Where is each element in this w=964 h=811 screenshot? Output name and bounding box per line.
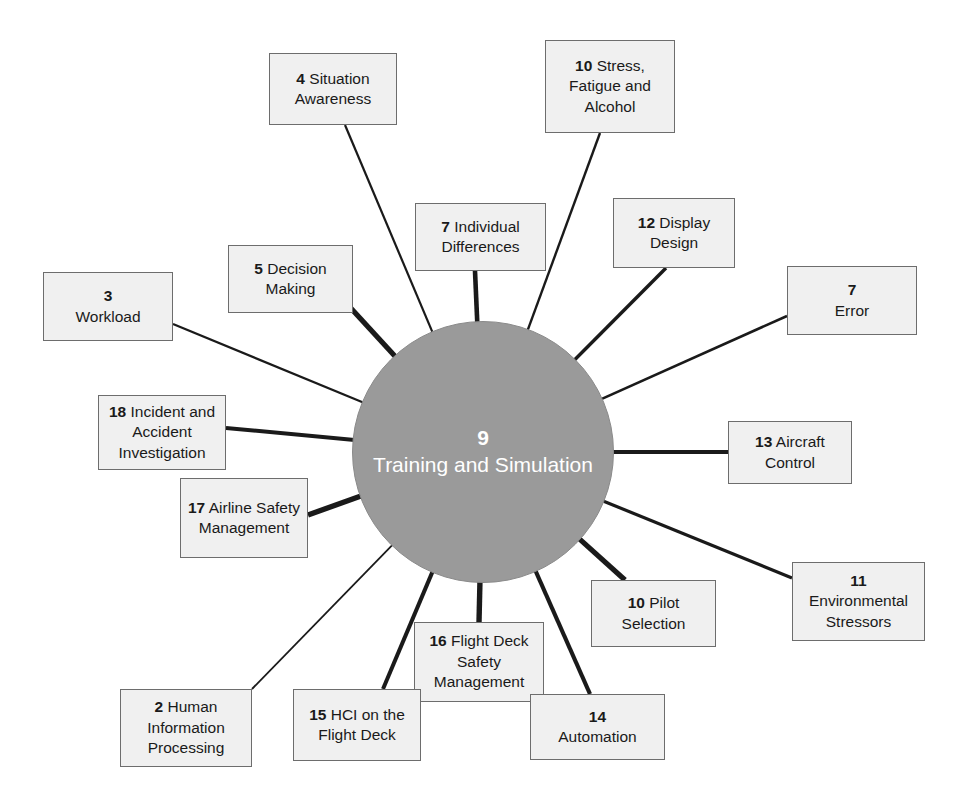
node-display-design[interactable]: 12 Display Design (613, 198, 735, 268)
node-label-hci-flight-deck: 15 HCI on the Flight Deck (294, 703, 420, 748)
node-number-situation-awareness: 4 (296, 70, 305, 87)
node-human-information-processing[interactable]: 2 Human Information Processing (120, 689, 252, 767)
node-aircraft-control[interactable]: 13 Aircraft Control (728, 421, 852, 484)
edge-airline-safety-management (308, 496, 362, 515)
node-number-display-design: 12 (638, 214, 655, 231)
edge-pilot-selection (579, 538, 625, 580)
edge-workload (173, 324, 364, 403)
node-label-workload: 3Workload (70, 284, 145, 329)
node-number-error: 7 (848, 281, 857, 298)
node-environmental-stressors[interactable]: 11Environmental Stressors (792, 562, 925, 641)
node-hci-flight-deck[interactable]: 15 HCI on the Flight Deck (293, 689, 421, 761)
node-label-flight-deck-safety-management: 16 Flight Deck Safety Management (415, 629, 543, 694)
edge-error (601, 316, 787, 399)
node-number-workload: 3 (104, 287, 113, 304)
node-decision-making[interactable]: 5 Decision Making (228, 245, 353, 313)
node-number-pilot-selection: 10 (628, 594, 645, 611)
node-individual-differences[interactable]: 7 Individual Differences (415, 203, 546, 271)
node-number-decision-making: 5 (254, 260, 263, 277)
node-label-situation-awareness: 4 Situation Awareness (270, 67, 396, 112)
node-number-airline-safety-management: 17 (188, 499, 205, 516)
node-airline-safety-management[interactable]: 17 Airline Safety Management (180, 478, 308, 558)
node-number-stress-fatigue-alcohol: 10 (575, 57, 592, 74)
node-flight-deck-safety-management[interactable]: 16 Flight Deck Safety Management (414, 622, 544, 702)
node-situation-awareness[interactable]: 4 Situation Awareness (269, 53, 397, 125)
node-label-pilot-selection: 10 Pilot Selection (592, 591, 715, 636)
hub-number: 9 (477, 426, 489, 450)
node-number-aircraft-control: 13 (755, 433, 772, 450)
edge-individual-differences (475, 271, 477, 323)
node-label-decision-making: 5 Decision Making (229, 257, 352, 302)
edge-display-design (574, 268, 666, 361)
edge-human-information-processing (252, 544, 393, 689)
hub-label: Training and Simulation (361, 452, 605, 478)
node-number-incident-accident-investigation: 18 (109, 403, 126, 420)
radial-diagram: 9 Training and Simulation 4 Situation Aw… (0, 0, 964, 811)
node-label-incident-accident-investigation: 18 Incident and Accident Investigation (99, 400, 225, 465)
node-label-individual-differences: 7 Individual Differences (416, 215, 545, 260)
hub-node-training-and-simulation[interactable]: 9 Training and Simulation (352, 321, 614, 583)
node-label-error: 7Error (830, 278, 874, 323)
node-label-human-information-processing: 2 Human Information Processing (121, 695, 251, 760)
node-label-aircraft-control: 13 Aircraft Control (729, 430, 851, 475)
edge-incident-accident-investigation (226, 428, 355, 440)
node-label-display-design: 12 Display Design (614, 211, 734, 256)
node-label-stress-fatigue-alcohol: 10 Stress, Fatigue and Alcohol (546, 54, 674, 119)
node-label-automation: 14Automation (553, 705, 641, 750)
node-stress-fatigue-alcohol[interactable]: 10 Stress, Fatigue and Alcohol (545, 40, 675, 133)
node-number-human-information-processing: 2 (155, 698, 164, 715)
node-workload[interactable]: 3Workload (43, 272, 173, 341)
node-number-automation: 14 (589, 708, 606, 725)
node-label-airline-safety-management: 17 Airline Safety Management (181, 496, 307, 541)
node-number-flight-deck-safety-management: 16 (429, 632, 446, 649)
node-number-hci-flight-deck: 15 (309, 706, 326, 723)
node-pilot-selection[interactable]: 10 Pilot Selection (591, 580, 716, 647)
edge-environmental-stressors (602, 501, 792, 578)
node-label-environmental-stressors: 11Environmental Stressors (793, 569, 924, 634)
edge-flight-deck-safety-management (479, 581, 480, 622)
node-number-environmental-stressors: 11 (850, 572, 866, 589)
node-error[interactable]: 7Error (787, 266, 917, 335)
node-number-individual-differences: 7 (441, 218, 450, 235)
node-incident-accident-investigation[interactable]: 18 Incident and Accident Investigation (98, 395, 226, 470)
node-automation[interactable]: 14Automation (530, 694, 665, 760)
